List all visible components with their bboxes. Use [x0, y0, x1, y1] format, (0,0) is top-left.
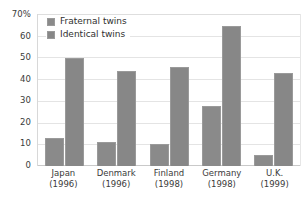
bar-group [195, 14, 247, 166]
legend-item-identical: Identical twins [46, 29, 130, 40]
x-axis-category: Finland (1998) [143, 168, 196, 204]
legend: Fraternal twins Identical twins [46, 16, 130, 40]
legend-label: Fraternal twins [60, 17, 127, 26]
y-axis-tick-label: 0 [25, 161, 31, 170]
bar-identical [170, 67, 189, 166]
x-axis-category-year: (1999) [248, 179, 301, 190]
legend-item-fraternal: Fraternal twins [46, 16, 130, 27]
x-axis-category-year: (1998) [143, 179, 196, 190]
bar-group [248, 14, 300, 166]
x-axis-category-year: (1996) [90, 179, 143, 190]
y-axis-tick-label: 70% [12, 10, 31, 19]
bar-identical [274, 73, 293, 166]
bar-fraternal [150, 144, 169, 166]
bar-group [143, 14, 195, 166]
bar-fraternal [97, 142, 116, 166]
bar-fraternal [45, 138, 64, 166]
x-axis-category-name: Japan [52, 168, 76, 178]
x-axis-category-name: Finland [154, 168, 184, 178]
x-axis-category: Japan (1996) [37, 168, 90, 204]
y-axis-tick-label: 40 [20, 74, 31, 83]
plot-area: Fraternal twins Identical twins [37, 14, 301, 166]
legend-swatch-icon [47, 18, 55, 26]
x-axis-category-year: (1998) [195, 179, 248, 190]
bar-identical [65, 58, 84, 166]
x-axis-category: U.K. (1999) [248, 168, 301, 204]
bar-identical [117, 71, 136, 166]
x-axis-category-name: Denmark [97, 168, 136, 178]
legend-swatch-icon [47, 31, 55, 39]
bar-identical [222, 26, 241, 166]
twin-concordance-bar-chart: 70% 60 50 40 30 20 10 0 [0, 0, 304, 209]
x-axis-category-name: Germany [202, 168, 241, 178]
x-axis-category-name: U.K. [266, 168, 283, 178]
y-axis-tick-label: 50 [20, 53, 31, 62]
bar-fraternal [202, 106, 221, 166]
x-axis-category-year: (1996) [37, 179, 90, 190]
x-axis-category: Denmark (1996) [90, 168, 143, 204]
bar-fraternal [254, 155, 273, 166]
legend-label: Identical twins [60, 30, 125, 39]
y-axis-tick-label: 20 [20, 118, 31, 127]
y-axis-tick-label: 10 [20, 139, 31, 148]
y-axis-tick-label: 30 [20, 96, 31, 105]
y-axis: 70% 60 50 40 30 20 10 0 [0, 14, 34, 166]
y-axis-tick-label: 60 [20, 31, 31, 40]
x-axis-category: Germany (1998) [195, 168, 248, 204]
x-axis: Japan (1996) Denmark (1996) Finland (199… [37, 168, 301, 204]
